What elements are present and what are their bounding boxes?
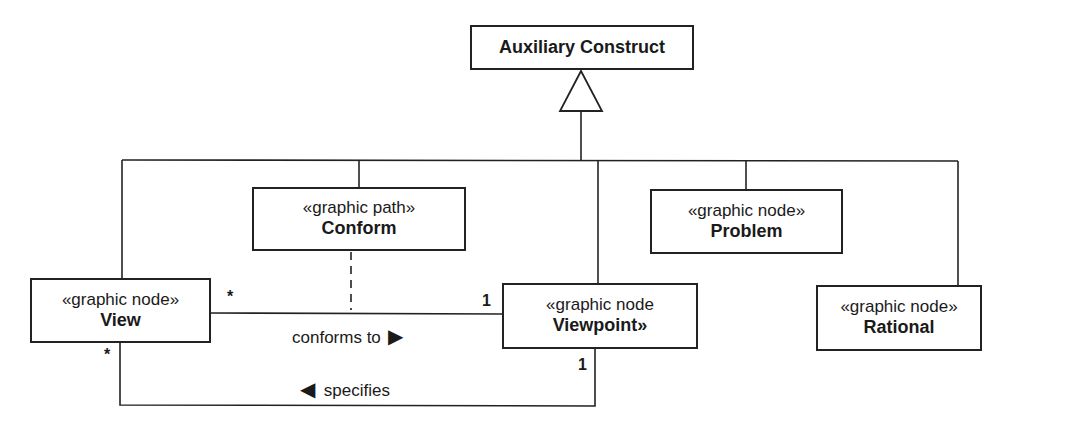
class-rational: «graphic node» Rational [816, 285, 982, 351]
direction-left-icon: ◀ [300, 378, 315, 400]
class-problem: «graphic node» Problem [650, 189, 843, 254]
generalization-arrow-icon [560, 71, 602, 111]
multiplicity-viewpoint-conforms: 1 [482, 292, 491, 310]
class-auxiliary-construct: Auxiliary Construct [470, 25, 694, 70]
stereotype: «graphic node» [62, 290, 179, 310]
multiplicity-view-specifies: * [104, 346, 110, 364]
multiplicity-view-conforms: * [227, 288, 233, 306]
class-name: View [100, 310, 141, 332]
class-name: Rational [863, 317, 934, 339]
stereotype: «graphic node» [840, 297, 957, 317]
class-viewpoint: «graphic node Viewpoint» [502, 283, 698, 349]
class-name: Problem [710, 221, 782, 243]
association-label-specifies: ◀ specifies [300, 377, 390, 401]
class-view: «graphic node» View [30, 278, 211, 343]
stereotype: «graphic node [546, 295, 654, 315]
multiplicity-viewpoint-specifies: 1 [578, 356, 587, 374]
class-conform: «graphic path» Conform [252, 187, 466, 251]
association-label-conforms-to: conforms to ▶ [292, 324, 403, 348]
direction-right-icon: ▶ [388, 325, 403, 347]
class-name: Auxiliary Construct [499, 37, 665, 59]
stereotype: «graphic path» [303, 198, 415, 218]
stereotype: «graphic node» [688, 201, 805, 221]
class-name: Viewpoint» [553, 315, 648, 337]
class-name: Conform [322, 218, 397, 240]
